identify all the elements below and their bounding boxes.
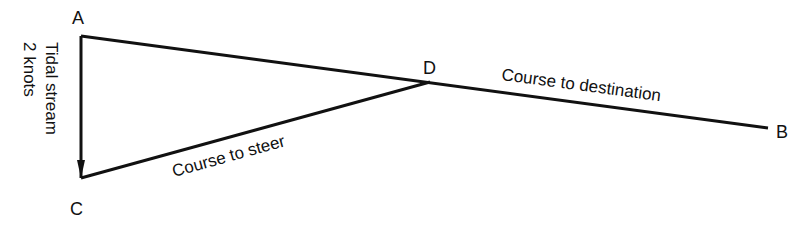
vector-triangle-diagram: A C D B Tidal stream 2 knots Course to d… [0,0,809,231]
point-label-b: B [776,122,788,142]
point-label-d: D [423,58,436,78]
tidal-speed-label: 2 knots [20,42,39,97]
point-label-c: C [70,199,83,219]
point-label-a: A [72,8,84,28]
course-to-steer-line [81,82,430,178]
tidal-stream-label: Tidal stream [42,42,61,135]
course-to-destination-label: Course to destination [500,65,662,105]
